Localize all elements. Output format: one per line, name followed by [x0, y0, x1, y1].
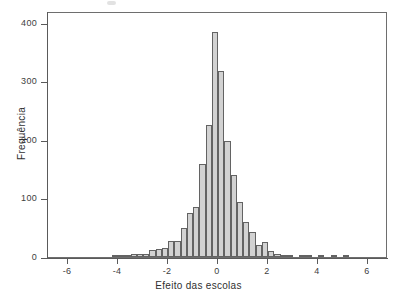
x-axis-tick — [67, 259, 68, 264]
y-axis-title: Frequência — [16, 74, 27, 194]
x-axis-tick — [317, 259, 318, 264]
histogram-bar — [318, 255, 324, 257]
y-axis-tick — [41, 141, 47, 142]
histogram-bar — [331, 255, 337, 257]
scan-artifact — [107, 1, 116, 5]
x-axis-tick — [267, 259, 268, 264]
y-axis-tick-label: 100 — [0, 193, 37, 203]
histogram-bars — [48, 13, 386, 257]
y-axis-tick — [41, 82, 47, 83]
y-axis-tick-label: 0 — [0, 252, 37, 262]
x-axis-tick-label: -6 — [52, 266, 82, 276]
x-axis-tick-label: -2 — [152, 266, 182, 276]
x-axis-tick-label: 4 — [302, 266, 332, 276]
plot-area — [47, 12, 387, 258]
histogram-bar — [343, 255, 349, 257]
y-axis-tick — [41, 199, 47, 200]
x-axis-title: Efeito das escolas — [0, 280, 397, 291]
y-axis-line — [47, 12, 48, 259]
histogram-bar — [287, 255, 293, 257]
x-axis-tick — [367, 259, 368, 264]
x-axis-tick — [167, 259, 168, 264]
x-axis-tick — [217, 259, 218, 264]
histogram-figure: 0100200300400 -6-4-20246 Frequência Efei… — [0, 0, 397, 303]
x-axis-tick-label: 0 — [202, 266, 232, 276]
y-axis-tick — [41, 258, 47, 259]
x-axis-tick — [117, 259, 118, 264]
x-axis-tick-label: 2 — [252, 266, 282, 276]
y-axis-tick — [41, 24, 47, 25]
histogram-bar — [306, 255, 312, 257]
x-axis-tick-label: -4 — [102, 266, 132, 276]
x-axis-tick-label: 6 — [352, 266, 382, 276]
y-axis-tick-label: 400 — [0, 18, 37, 28]
